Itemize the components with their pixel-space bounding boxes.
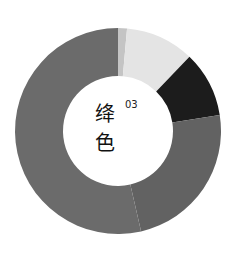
donut-chart xyxy=(0,0,233,259)
donut-chart-svg xyxy=(0,0,233,259)
segment-4 xyxy=(130,115,221,231)
